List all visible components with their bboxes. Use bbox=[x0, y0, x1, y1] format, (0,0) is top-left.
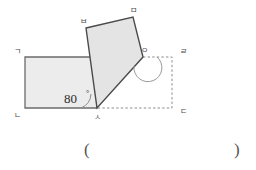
geometry-figure: ㄱ ㄴ ㅅ ㅂ ㅁ ㅇ ㄹ ㄷ 80 ° ( ) bbox=[0, 0, 256, 170]
vertex-label-s: ㅅ bbox=[94, 113, 101, 122]
figure-stage: ㄱ ㄴ ㅅ ㅂ ㅁ ㅇ ㄹ ㄷ 80 ° ( ) bbox=[0, 0, 256, 170]
angle-value-80: 80 bbox=[64, 91, 77, 106]
angle-degree-sign: ° bbox=[86, 89, 89, 98]
rectangle-giniesa bbox=[25, 57, 97, 108]
vertex-label-b: ㅂ bbox=[80, 17, 87, 26]
answer-close-paren: ) bbox=[234, 140, 240, 159]
vertex-label-o: ㅇ bbox=[141, 46, 148, 55]
vertex-label-d: ㄷ bbox=[180, 107, 187, 116]
vertex-label-m: ㅁ bbox=[130, 6, 137, 15]
vertex-label-g: ㄱ bbox=[14, 47, 21, 56]
vertex-label-n: ㄴ bbox=[14, 111, 21, 120]
quadrilateral-sabmio bbox=[86, 17, 143, 108]
answer-open-paren: ( bbox=[84, 140, 90, 159]
vertex-label-r: ㄹ bbox=[180, 47, 187, 56]
